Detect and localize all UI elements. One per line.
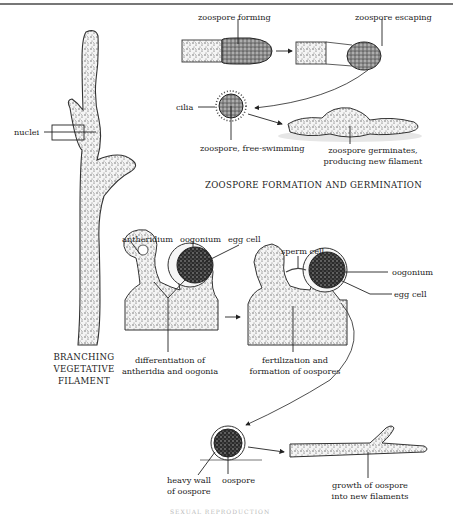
label-germinates-line1: zoospore germinates, [318,145,428,155]
label-germinates-line2: producing new filament [318,156,428,166]
arrow-oospore-to-growth [248,447,284,452]
label-oospore: oospore [222,475,255,485]
label-fertilization-line1: fertilization and [245,355,345,365]
section-title-line2: VEGETATIVE [44,364,124,375]
label-differentiation-line2: antheridia and oogonia [120,366,220,376]
differentiation-figure [124,230,239,352]
label-growth-line1: growth of oospore [320,480,420,490]
oospore-figure [198,426,262,475]
label-sperm-cell: sperm cell [281,246,324,256]
new-filament-figure [290,426,427,478]
label-nuclei: nuclei [14,127,39,137]
label-free-swimming: zoospore, free-swimming [200,143,304,153]
vegetative-filament [68,31,135,345]
label-antheridium: antheridium [122,234,173,244]
label-fertilization-line2: formation of oospores [245,366,345,376]
arrow-freeswimming-to-germinates [248,114,282,124]
germinating-zoospore [278,108,422,144]
section-title-line3: FILAMENT [44,376,124,387]
zoospore-forming-figure [182,19,272,64]
free-swimming-zoospore [198,91,246,140]
label-cilia: cilia [176,102,193,112]
label-heavy-wall-line2: of oospore [167,486,211,496]
arrow-escaping-to-freeswimming [255,70,368,108]
fertilization-figure [248,244,392,352]
section-title-line1: BRANCHING [44,352,124,363]
section-title-zoospore-formation: ZOOSPORE FORMATION AND GERMINATION [205,180,422,191]
label-oogonium-2: oogonium [392,267,433,277]
label-egg-cell-2: egg cell [394,289,427,299]
zoospore-escaping-figure [296,19,382,70]
label-zoospore-forming: zoospore forming [198,12,271,22]
label-egg-cell-1: egg cell [228,234,261,244]
label-differentiation-line1: differentiation of [120,355,220,365]
label-growth-line2: into new filaments [320,491,420,501]
cut-off-bottom-caption: SEXUAL REPRODUCTION [170,507,270,517]
label-zoospore-escaping: zoospore escaping [355,12,432,22]
label-oogonium-1: oogonium [180,234,221,244]
label-heavy-wall-line1: heavy wall [167,475,211,485]
